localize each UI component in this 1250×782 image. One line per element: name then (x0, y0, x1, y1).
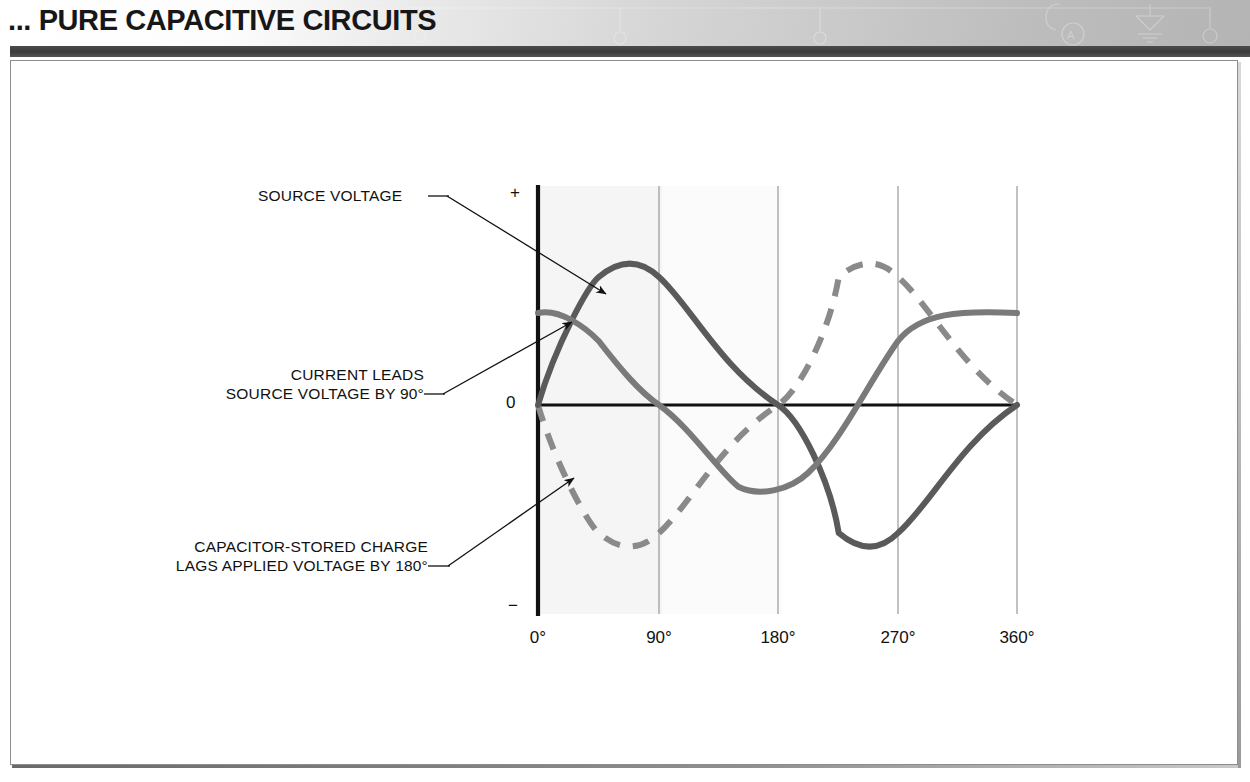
current-leads-label-line1: CURRENT LEADS (0, 366, 424, 384)
y-axis-zero-mark: 0 (506, 393, 515, 413)
x-tick-label-180: 180° (745, 628, 811, 648)
y-axis-plus-mark: + (510, 183, 520, 203)
y-axis-minus-mark: − (508, 596, 518, 616)
annotation-leader-tails (424, 196, 450, 566)
x-tick-label-0: 0° (508, 628, 568, 648)
x-tick-label-360: 360° (984, 628, 1050, 648)
plot-shade-region-2 (662, 186, 782, 614)
plot-shade-region (540, 186, 662, 614)
capacitor-charge-label-line1: CAPACITOR-STORED CHARGE (0, 538, 428, 556)
x-tick-label-90: 90° (629, 628, 689, 648)
current-leads-label-line2: SOURCE VOLTAGE BY 90° (0, 385, 424, 403)
x-tick-label-270: 270° (865, 628, 931, 648)
source-voltage-label: SOURCE VOLTAGE (258, 187, 402, 205)
capacitor-charge-label-line2: LAGS APPLIED VOLTAGE BY 180° (0, 557, 428, 575)
